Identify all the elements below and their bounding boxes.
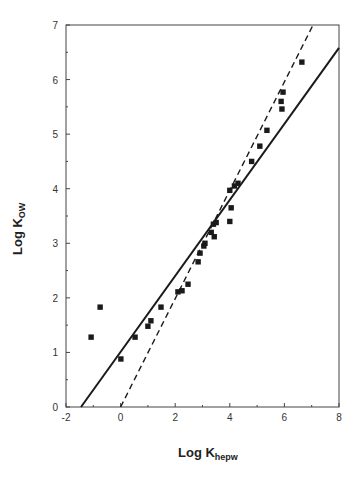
square-marker: [145, 324, 150, 329]
square-marker: [299, 59, 304, 64]
square-marker: [227, 188, 232, 193]
x-tick-label: 0: [118, 412, 124, 423]
x-tick-label: 2: [172, 412, 178, 423]
y-tick-label: 0: [52, 402, 58, 413]
square-marker: [197, 250, 202, 255]
scatter-chart: -20246801234567 Log Khepw Log KOW: [0, 0, 360, 480]
square-marker: [280, 89, 285, 94]
square-marker: [228, 205, 233, 210]
square-marker: [158, 304, 163, 309]
square-marker: [278, 99, 283, 104]
dashed-line: [121, 25, 313, 407]
x-axis-title: Log Khepw: [178, 445, 239, 462]
y-tick-label: 3: [52, 238, 58, 249]
y-tick-label: 2: [52, 293, 58, 304]
x-tick-label: 6: [282, 412, 288, 423]
square-marker: [257, 143, 262, 148]
square-marker: [227, 219, 232, 224]
square-marker: [132, 334, 137, 339]
square-marker: [97, 304, 102, 309]
y-tick-label: 6: [52, 75, 58, 86]
square-marker: [185, 282, 190, 287]
square-marker: [213, 220, 218, 225]
y-tick-label: 7: [52, 20, 58, 31]
y-axis-title: Log KOW: [10, 202, 27, 255]
square-marker: [202, 241, 207, 246]
square-marker: [279, 106, 284, 111]
square-marker: [249, 159, 254, 164]
y-tick-label: 4: [52, 184, 58, 195]
y-tick-label: 5: [52, 129, 58, 140]
x-tick-label: -2: [62, 412, 71, 423]
plot-frame: [66, 25, 339, 407]
solid-line: [81, 48, 339, 407]
square-marker: [264, 128, 269, 133]
square-marker: [118, 356, 123, 361]
axis-ticks: -20246801234567: [52, 20, 342, 423]
fit-lines: [81, 25, 339, 407]
square-marker: [88, 334, 93, 339]
square-marker: [195, 259, 200, 264]
data-points: [88, 59, 304, 361]
square-marker: [179, 288, 184, 293]
plot-border: [66, 25, 339, 407]
square-marker: [235, 181, 240, 186]
y-tick-label: 1: [52, 347, 58, 358]
x-tick-label: 8: [336, 412, 342, 423]
square-marker: [148, 318, 153, 323]
square-marker: [212, 234, 217, 239]
x-tick-label: 4: [227, 412, 233, 423]
